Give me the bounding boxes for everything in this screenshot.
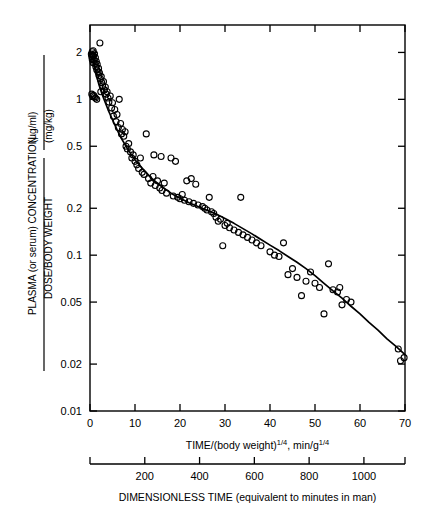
data-point [161, 180, 167, 186]
y-tick-label-0.1: 0.1 [67, 249, 82, 261]
y-axis-numerator-units: (µg/ml) [27, 112, 38, 143]
data-point [281, 240, 287, 246]
data-point [137, 155, 143, 161]
data-point [116, 96, 122, 102]
x-tick-label-50: 50 [309, 417, 321, 429]
data-point [285, 272, 291, 278]
y-tick-label-2: 2 [76, 46, 82, 58]
y-tick-label-0.5: 0.5 [67, 140, 82, 152]
y-axis-denominator-units: (mg/kg) [43, 109, 54, 143]
secondary-tick-label-800: 800 [300, 470, 318, 482]
x-tick-label-0: 0 [87, 417, 93, 429]
x-tick-label-20: 20 [174, 417, 186, 429]
data-point [164, 190, 170, 196]
chart-canvas: 0.010.020.050.10.20.512010203040506070TI… [0, 0, 434, 523]
x-tick-label-30: 30 [219, 417, 231, 429]
y-tick-label-1: 1 [76, 93, 82, 105]
data-point [158, 153, 164, 159]
data-point [317, 285, 323, 291]
data-point [220, 243, 226, 249]
secondary-tick-label-600: 600 [245, 470, 263, 482]
data-point [136, 165, 142, 171]
data-point [299, 293, 305, 299]
y-tick-label-0.05: 0.05 [61, 296, 82, 308]
x-axis-secondary-title: DIMENSIONLESS TIME (equivalent to minute… [119, 491, 377, 503]
x-tick-label-40: 40 [264, 417, 276, 429]
plot-frame [90, 25, 405, 411]
secondary-tick-label-400: 400 [190, 470, 208, 482]
data-point [321, 311, 327, 317]
secondary-tick-label-1000: 1000 [352, 470, 376, 482]
x-tick-label-70: 70 [399, 417, 411, 429]
y-tick-label-0.01: 0.01 [61, 405, 82, 417]
data-point [193, 181, 199, 187]
data-point [339, 302, 345, 308]
data-point [114, 111, 120, 117]
data-point [258, 243, 264, 249]
data-point [173, 158, 179, 164]
pharmacokinetic-scatter-figure: 0.010.020.050.10.20.512010203040506070TI… [0, 0, 434, 523]
y-tick-label-0.2: 0.2 [67, 202, 82, 214]
data-point [143, 131, 149, 137]
data-point [303, 278, 309, 284]
x-axis-primary-title: TIME/(body weight)1/4, min/g1/4 [186, 438, 329, 452]
data-point [97, 40, 103, 46]
data-point [326, 261, 332, 267]
data-point [290, 266, 296, 272]
y-axis-numerator: PLASMA (or serum) CONCENTRATION [27, 137, 38, 315]
fitted-curve [92, 56, 405, 355]
data-point [151, 152, 157, 158]
y-tick-label-0.02: 0.02 [61, 358, 82, 370]
x-tick-label-60: 60 [354, 417, 366, 429]
data-point [348, 299, 354, 305]
secondary-tick-label-200: 200 [136, 470, 154, 482]
data-point [294, 274, 300, 280]
y-axis-denominator: DOSE/BODY WEIGHT [43, 197, 54, 299]
x-tick-label-10: 10 [129, 417, 141, 429]
data-point [238, 194, 244, 200]
data-point [206, 194, 212, 200]
